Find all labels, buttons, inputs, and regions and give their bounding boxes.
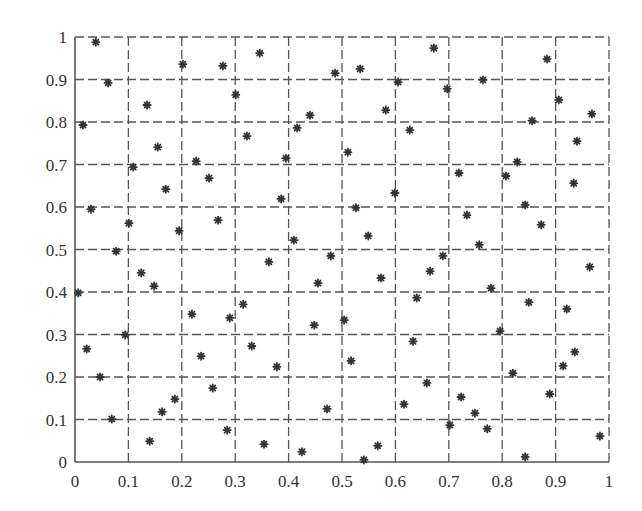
x-tick-label: 0.3 — [225, 472, 246, 491]
asterisk-marker-icon — [79, 121, 86, 128]
y-tick-label: 0.4 — [46, 283, 68, 302]
asterisk-marker-icon — [248, 342, 255, 349]
asterisk-marker-icon — [563, 305, 570, 312]
asterisk-marker-icon — [105, 79, 112, 86]
y-tick-label: 0.2 — [46, 368, 67, 387]
x-axis-tick-labels: 00.10.20.30.40.50.60.70.80.91 — [71, 472, 614, 491]
asterisk-marker-icon — [113, 248, 120, 255]
asterisk-marker-icon — [360, 456, 367, 463]
asterisk-marker-icon — [502, 172, 509, 179]
x-tick-label: 0.6 — [385, 472, 406, 491]
y-tick-label: 0.5 — [46, 241, 67, 260]
asterisk-marker-icon — [496, 328, 503, 335]
asterisk-marker-icon — [193, 158, 200, 165]
asterisk-marker-icon — [352, 204, 359, 211]
asterisk-marker-icon — [514, 158, 521, 165]
x-tick-label: 0.9 — [545, 472, 566, 491]
y-tick-label: 0.1 — [46, 411, 67, 430]
asterisk-marker-icon — [215, 217, 222, 224]
x-tick-label: 0 — [71, 472, 80, 491]
asterisk-marker-icon — [243, 132, 250, 139]
asterisk-marker-icon — [314, 279, 321, 286]
asterisk-marker-icon — [108, 415, 115, 422]
asterisk-marker-icon — [92, 39, 99, 46]
asterisk-marker-icon — [323, 405, 330, 412]
asterisk-marker-icon — [290, 237, 297, 244]
y-tick-label: 0.8 — [46, 113, 67, 132]
asterisk-marker-icon — [347, 357, 354, 364]
asterisk-marker-icon — [484, 425, 491, 432]
asterisk-marker-icon — [278, 195, 285, 202]
asterisk-marker-icon — [331, 70, 338, 77]
asterisk-marker-icon — [75, 289, 82, 296]
scatter-chart: 00.10.20.30.40.50.60.70.80.91 00.10.20.3… — [0, 0, 642, 511]
y-axis-tick-labels: 00.10.20.30.40.50.60.70.80.91 — [46, 28, 68, 472]
asterisk-marker-icon — [529, 117, 536, 124]
asterisk-marker-icon — [87, 206, 94, 213]
asterisk-marker-icon — [205, 175, 212, 182]
asterisk-marker-icon — [439, 252, 446, 259]
asterisk-marker-icon — [522, 453, 529, 460]
asterisk-marker-icon — [176, 227, 183, 234]
asterisk-marker-icon — [382, 107, 389, 114]
asterisk-marker-icon — [365, 232, 372, 239]
asterisk-marker-icon — [427, 268, 434, 275]
asterisk-marker-icon — [479, 76, 486, 83]
asterisk-marker-icon — [455, 169, 462, 176]
asterisk-marker-icon — [546, 390, 553, 397]
y-tick-label: 1 — [59, 28, 68, 47]
asterisk-marker-icon — [232, 91, 239, 98]
x-tick-label: 0.5 — [331, 472, 352, 491]
asterisk-marker-icon — [377, 274, 384, 281]
asterisk-marker-icon — [219, 62, 226, 69]
asterisk-marker-icon — [588, 110, 595, 117]
asterisk-marker-icon — [413, 294, 420, 301]
x-tick-label: 0.4 — [278, 472, 300, 491]
asterisk-marker-icon — [298, 448, 305, 455]
asterisk-marker-icon — [273, 363, 280, 370]
asterisk-marker-icon — [224, 427, 231, 434]
asterisk-marker-icon — [406, 126, 413, 133]
asterisk-marker-icon — [327, 252, 334, 259]
asterisk-marker-icon — [138, 269, 145, 276]
asterisk-marker-icon — [394, 78, 401, 85]
asterisk-marker-icon — [423, 379, 430, 386]
asterisk-marker-icon — [596, 432, 603, 439]
asterisk-marker-icon — [430, 44, 437, 51]
x-tick-label: 0.2 — [171, 472, 192, 491]
asterisk-marker-icon — [344, 149, 351, 156]
asterisk-marker-icon — [122, 331, 129, 338]
asterisk-marker-icon — [463, 211, 470, 218]
asterisk-marker-icon — [559, 362, 566, 369]
asterisk-marker-icon — [179, 61, 186, 68]
asterisk-marker-icon — [240, 301, 247, 308]
asterisk-marker-icon — [341, 316, 348, 323]
asterisk-marker-icon — [150, 282, 157, 289]
asterisk-marker-icon — [446, 421, 453, 428]
asterisk-marker-icon — [374, 442, 381, 449]
asterisk-marker-icon — [188, 311, 195, 318]
asterisk-marker-icon — [391, 189, 398, 196]
asterisk-marker-icon — [226, 314, 233, 321]
y-tick-label: 0 — [59, 453, 68, 472]
y-tick-label: 0.6 — [46, 198, 67, 217]
asterisk-marker-icon — [509, 370, 516, 377]
asterisk-marker-icon — [260, 441, 267, 448]
asterisk-marker-icon — [96, 373, 103, 380]
asterisk-marker-icon — [457, 393, 464, 400]
asterisk-marker-icon — [197, 353, 204, 360]
asterisk-marker-icon — [543, 56, 550, 63]
x-tick-label: 0.8 — [492, 472, 513, 491]
asterisk-marker-icon — [125, 220, 132, 227]
asterisk-marker-icon — [158, 408, 165, 415]
asterisk-marker-icon — [573, 138, 580, 145]
x-tick-label: 0.1 — [118, 472, 139, 491]
asterisk-marker-icon — [409, 338, 416, 345]
asterisk-marker-icon — [130, 163, 137, 170]
y-tick-label: 0.9 — [46, 71, 67, 90]
data-points — [75, 39, 604, 464]
asterisk-marker-icon — [306, 112, 313, 119]
asterisk-marker-icon — [154, 143, 161, 150]
asterisk-marker-icon — [143, 101, 150, 108]
asterisk-marker-icon — [444, 85, 451, 92]
